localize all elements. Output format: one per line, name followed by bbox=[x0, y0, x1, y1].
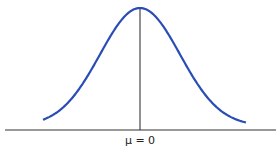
normal-curve bbox=[43, 8, 246, 122]
normal-curve-chart bbox=[0, 0, 280, 153]
mean-label: μ = 0 bbox=[0, 134, 280, 147]
